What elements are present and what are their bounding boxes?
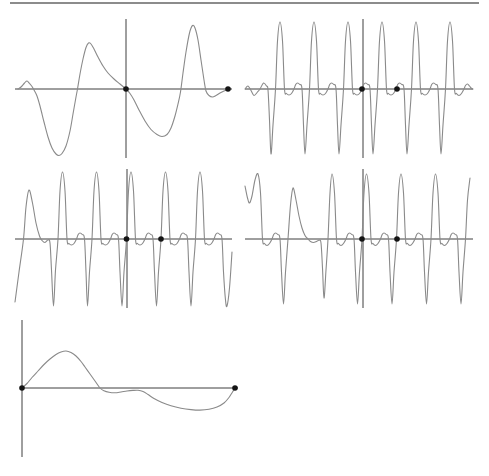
plot-bottom-left-marked-point-1 <box>232 385 238 391</box>
wavelet-figure <box>0 0 489 476</box>
plot-middle-right-marked-point-1 <box>394 236 400 242</box>
plot-middle-left-marked-point-0 <box>124 236 130 242</box>
plot-top-left-marked-point-0 <box>123 86 129 92</box>
plot-top-right-marked-point-0 <box>359 86 365 92</box>
plot-top-right-marked-point-1 <box>394 86 400 92</box>
plot-top-left-curve <box>18 25 228 155</box>
plot-bottom-left-curve <box>22 351 235 410</box>
plot-middle-right-marked-point-0 <box>359 236 365 242</box>
plot-middle-left-marked-point-1 <box>158 236 164 242</box>
figure-canvas <box>0 0 489 476</box>
plot-top-right-curve <box>245 22 473 154</box>
plot-top-left-marked-point-1 <box>225 86 231 92</box>
plot-bottom-left-marked-point-0 <box>19 385 25 391</box>
